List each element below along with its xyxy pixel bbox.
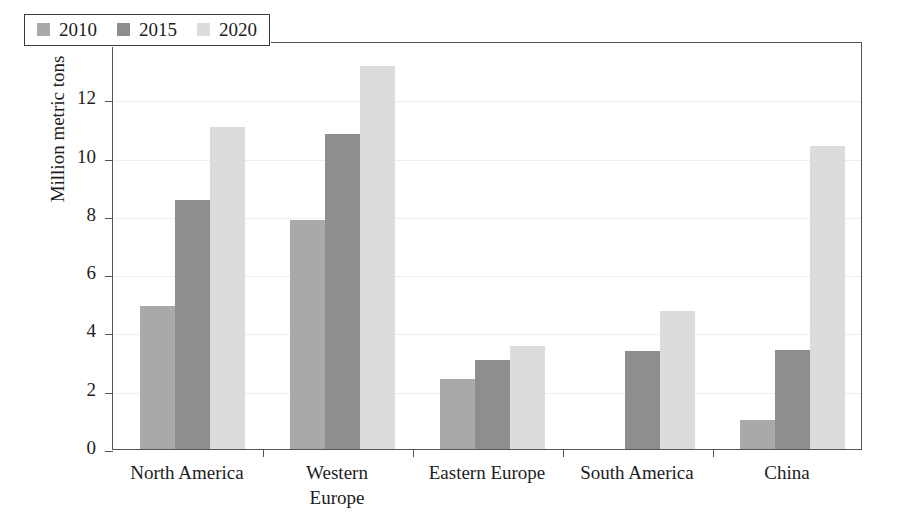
y-axis-tick-label: 4 (50, 320, 96, 342)
gridline (113, 101, 861, 102)
x-axis-category-label: China (712, 460, 862, 485)
legend-swatch-icon (37, 23, 50, 36)
bar (625, 351, 660, 449)
bar (440, 379, 475, 449)
x-axis-category-label: WesternEurope (262, 460, 412, 510)
y-axis-tick (105, 218, 113, 219)
y-axis-tick-label: 2 (50, 379, 96, 401)
legend-label: 2020 (219, 20, 257, 39)
bar (290, 220, 325, 449)
bar (325, 134, 360, 449)
x-axis-category-label: Eastern Europe (412, 460, 562, 485)
x-axis-tick (563, 449, 564, 457)
y-axis-tick-label: 6 (50, 262, 96, 284)
bar (810, 146, 845, 449)
chart-legend: 201020152020 (24, 14, 270, 46)
y-axis-tick-label: 0 (50, 437, 96, 459)
y-axis-tick (105, 101, 113, 102)
y-axis-tick (105, 451, 113, 452)
y-axis-tick (105, 160, 113, 161)
y-axis-tick-label: 8 (50, 204, 96, 226)
bar (140, 306, 175, 449)
x-axis-tick (263, 449, 264, 457)
y-axis-tick-label: 10 (50, 146, 96, 168)
legend-label: 2015 (139, 20, 177, 39)
x-axis-tick (713, 449, 714, 457)
plot-area (112, 42, 862, 450)
bar-chart: Million metric tons 02468101214 North Am… (0, 0, 908, 530)
bar (475, 360, 510, 449)
bar (510, 346, 545, 449)
y-axis-tick (105, 393, 113, 394)
legend-swatch-icon (117, 23, 130, 36)
bar (660, 311, 695, 449)
bar (740, 420, 775, 449)
legend-item: 2015 (117, 20, 177, 39)
y-axis-tick (105, 334, 113, 335)
legend-item: 2020 (197, 20, 257, 39)
x-axis-tick (413, 449, 414, 457)
bar (210, 127, 245, 449)
legend-item: 2010 (37, 20, 97, 39)
bar (360, 66, 395, 449)
x-axis-category-label: South America (562, 460, 712, 485)
legend-swatch-icon (197, 23, 210, 36)
y-axis-tick-label: 12 (50, 87, 96, 109)
bar (775, 350, 810, 449)
y-axis-tick (105, 276, 113, 277)
x-axis-category-label: North America (112, 460, 262, 485)
bar (175, 200, 210, 449)
legend-label: 2010 (59, 20, 97, 39)
